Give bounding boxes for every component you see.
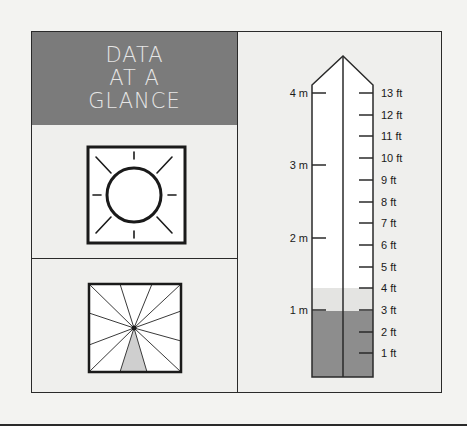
depth-gauge: 4 m 3 m 2 m 1 m 13 ft 12 ft <box>238 32 441 394</box>
imperial-label-6ft: 6 ft <box>381 239 396 251</box>
sun-panel <box>32 125 237 259</box>
header-line-3: GLANCE <box>88 90 180 113</box>
metric-label-1m: 1 m <box>290 304 308 316</box>
sun-icon <box>32 125 238 259</box>
imperial-label-10ft: 10 ft <box>381 152 402 164</box>
metric-label-3m: 3 m <box>290 159 308 171</box>
imperial-label-9ft: 9 ft <box>381 174 396 186</box>
left-column: DATA AT A GLANCE <box>32 32 238 392</box>
header-line-2: AT A <box>109 67 160 90</box>
header-banner: DATA AT A GLANCE <box>32 32 237 125</box>
imperial-label-12ft: 12 ft <box>381 109 402 121</box>
imperial-label-3ft: 3 ft <box>381 304 396 316</box>
metric-label-4m: 4 m <box>290 87 308 99</box>
header-line-1: DATA <box>105 44 163 67</box>
metric-label-2m: 2 m <box>290 232 308 244</box>
imperial-label-13ft: 13 ft <box>381 87 402 99</box>
imperial-label-7ft: 7 ft <box>381 217 396 229</box>
imperial-label-2ft: 2 ft <box>381 326 396 338</box>
imperial-label-4ft: 4 ft <box>381 282 396 294</box>
data-at-a-glance-card: DATA AT A GLANCE <box>31 31 442 393</box>
compass-rose-icon <box>32 259 238 392</box>
compass-panel <box>32 259 237 392</box>
imperial-label-11ft: 11 ft <box>381 130 402 142</box>
imperial-label-5ft: 5 ft <box>381 261 396 273</box>
imperial-label-1ft: 1 ft <box>381 347 396 359</box>
depth-gauge-panel: 4 m 3 m 2 m 1 m 13 ft 12 ft <box>238 32 441 392</box>
imperial-label-8ft: 8 ft <box>381 196 396 208</box>
